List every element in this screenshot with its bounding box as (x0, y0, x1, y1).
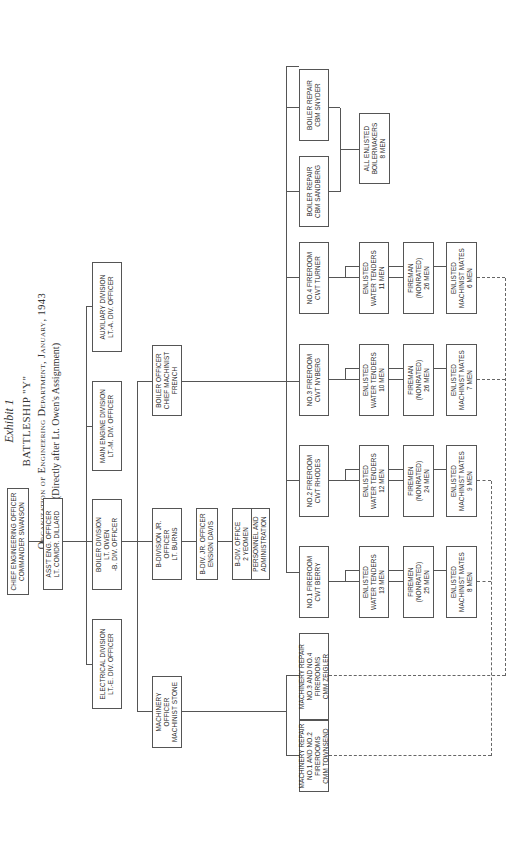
box-line: LT.-E. DIV. OFFICER (107, 633, 115, 695)
box-line: MACHINIST MATES (458, 451, 466, 511)
connector-line (389, 581, 403, 582)
connector-line (137, 381, 152, 382)
fireroom-3-water-tenders: ENLISTED WATER TENDERS 10 MEN (359, 344, 389, 416)
dashed-connector (329, 675, 505, 676)
fireroom-2-box: NO.2 FIREROOM CWT RHODES (299, 445, 329, 517)
box-line: MAIN ENGINE DIVISION (99, 389, 107, 463)
box-line: 24 MEN (423, 469, 431, 493)
box-line: FIREMEN (407, 567, 415, 596)
box-line: MACHINIST MATES (458, 248, 466, 308)
machinery-repair-3-4-box: MACHINERY REPAIR NO.3 AND NO.4 FIREROOMS… (299, 633, 329, 720)
box-line: BOILER REPAIR (306, 80, 314, 130)
box-line: CBM SANDBERG (314, 165, 322, 218)
box-line: ENLISTED (450, 364, 458, 396)
box-line: WATER TENDERS (370, 453, 378, 509)
connector-line (345, 571, 346, 582)
box-line: MACHINIST STONE (171, 682, 179, 742)
box-line: 12 MEN (378, 469, 386, 493)
box-line: -B. DIV. OFFICER (111, 518, 119, 571)
auxiliary-division-box: AUXILIARY DIVISION LT.-A. DIV. OFFICER (92, 262, 122, 352)
box-line: BOILER OFFICER (155, 353, 163, 408)
box-line: ASS'T ENG. OFFICER (45, 511, 53, 578)
connector-line (340, 108, 341, 192)
box-line: LT.-M. DIV. OFFICER (107, 395, 115, 458)
box-line: OFFICER (163, 698, 171, 727)
fireroom-4-box: NO.4 FIREROOM CWT TURNER (299, 242, 329, 314)
box-line: CWT BERRY (314, 563, 322, 602)
connector-line (329, 191, 340, 192)
connector-line (329, 277, 359, 278)
box-line: CWT NYBERG (314, 358, 322, 402)
box-line: AUXILIARY DIVISION (99, 275, 107, 340)
connector-line (63, 541, 86, 542)
fireroom-2-firemen: FIREMEN (NONRATED) 24 MEN (403, 445, 434, 517)
connector-line (389, 480, 403, 481)
box-line: (NONRATED) (415, 461, 423, 502)
boiler-repair-snyder-box: BOILER REPAIR CBM SNYDER (299, 69, 329, 141)
box-line: MACHINIST MATES (458, 350, 466, 410)
connector-line (329, 379, 359, 380)
box-line: ADMINISTRATION (260, 516, 268, 572)
fireroom-1-firemen: FIREMEN (NONRATED) 25 MEN (403, 546, 434, 618)
box-line: 10 MEN (378, 368, 386, 392)
box-line: NO.1 AND NO.2 (306, 732, 314, 780)
chart-note: (Directly after Lt. Owen's Assignment) (50, 0, 61, 842)
box-line: 7 MEN (466, 370, 474, 390)
box-line: B-DIVISION JR. (155, 520, 163, 567)
box-line: B-DIV. JR. OFFICER (199, 513, 207, 574)
dashed-connector (505, 278, 506, 676)
office-personnel: PERSONNEL AND ADMINISTRATION (251, 509, 270, 579)
box-line: ALL ENLISTED (363, 126, 371, 171)
office-yeomen: B-DIV. OFFICE 2 YEOMEN (233, 509, 251, 579)
fireroom-2-machinist-mates: ENLISTED MACHINIST MATES 9 MEN (446, 445, 477, 517)
machinery-officer-box: MACHINERY OFFICER MACHINIST STONE (152, 676, 182, 748)
dashed-connector (477, 277, 505, 278)
fireroom-4-water-tenders: ENLISTED WATER TENDERS 11 MEN (359, 242, 389, 314)
exhibit-label: Exhibit 1 (2, 0, 17, 842)
box-line: ENLISTED (450, 262, 458, 294)
box-line: MACHINIST MATES (458, 552, 466, 612)
box-line: NO.4 FIREROOM (306, 252, 314, 304)
ensign-davis-box: B-DIV. JR. OFFICER ENSIGN DAVIS (196, 508, 218, 580)
box-line: 8 MEN (466, 572, 474, 592)
connector-line (329, 480, 359, 481)
box-line: ENLISTED (362, 465, 370, 497)
box-line: LT. OWEN (103, 529, 111, 560)
connector-line (286, 676, 287, 756)
box-line: ENLISTED (362, 566, 370, 598)
boiler-division-box: BOILER DIVISION LT. OWEN -B. DIV. OFFICE… (92, 499, 122, 590)
connector-line (286, 66, 299, 67)
connector-line (182, 711, 286, 712)
box-line: WATER TENDERS (370, 250, 378, 306)
fireroom-3-machinist-mates: ENLISTED MACHINIST MATES 7 MEN (446, 344, 477, 416)
box-line: CWT RHODES (314, 459, 322, 504)
box-line: NO.1 FIREROOM (306, 556, 314, 608)
connector-line (345, 470, 346, 481)
box-line: CWT TURNER (314, 256, 322, 300)
connector-line (345, 267, 346, 278)
boiler-repair-sandberg-box: BOILER REPAIR CBM SANDBERG (299, 156, 329, 227)
fireroom-2-water-tenders: ENLISTED WATER TENDERS 12 MEN (359, 445, 389, 517)
box-line: LT. COMDR. DILLARD (53, 511, 61, 577)
box-line: ENSIGN DAVIS (207, 521, 215, 567)
box-line: LT. BURNS (171, 527, 179, 560)
box-line: OFFICER (163, 530, 171, 559)
boiler-officer-box: BOILER OFFICER CHIEF MACHINIST FRENCH (152, 345, 182, 416)
box-line: CMM TOWNSEND (322, 728, 330, 783)
box-line: ENLISTED (362, 262, 370, 294)
box-line: 8 MEN (379, 138, 387, 158)
connector-line (286, 277, 299, 278)
chart-subtitle: Organization of Engineering Department, … (36, 0, 47, 842)
connector-line (389, 379, 403, 380)
box-line: 26 MEN (423, 368, 431, 392)
connector-line (286, 572, 299, 573)
main-engine-division-box: MAIN ENGINE DIVISION LT.-M. DIV. OFFICER (92, 381, 122, 471)
box-line: NO.3 FIREROOM (306, 354, 314, 406)
connector-line (389, 277, 403, 278)
connector-line (340, 149, 359, 150)
box-line: FIREMAN (407, 263, 415, 292)
b-div-office-box: B-DIV. OFFICE 2 YEOMEN PERSONNEL AND ADM… (232, 508, 270, 580)
box-line: FIREROOMS (314, 657, 322, 697)
fireroom-3-box: NO.3 FIREROOM CWT NYBERG (299, 344, 329, 416)
box-line: 13 MEN (378, 570, 386, 594)
